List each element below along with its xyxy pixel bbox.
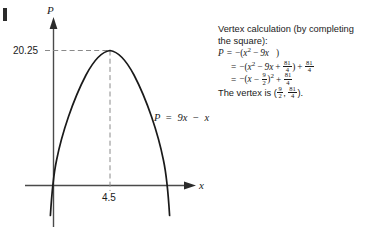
x-tick-label-45: 4.5 <box>102 192 116 203</box>
eq3-plus: + <box>276 75 281 85</box>
x-axis-label: x <box>198 179 204 191</box>
curve-label-minus: − <box>193 112 199 123</box>
eq1-lhs: P <box>218 48 224 58</box>
eq3-frac2-numerator: 81 <box>284 72 293 79</box>
eq2-frac1-numerator: 81 <box>283 60 292 67</box>
parabola-graph: P x 20.25 4.5 P = 9x − x 2 <box>0 0 210 227</box>
vertex-calculation-panel: Vertex calculation (by completing the sq… <box>218 24 370 100</box>
eq2-fraction2-81-over-4: 814 <box>305 60 314 74</box>
curve-label-equals: = <box>166 112 172 123</box>
eq1-equals: = <box>227 48 232 58</box>
calculation-equation-line-1: P=−(x2−9x) <box>218 47 370 60</box>
vertex-frac1-denominator: 2 <box>277 92 282 100</box>
eq2-frac2-denominator: 4 <box>305 66 314 74</box>
eq3-exponent: 2 <box>270 73 274 81</box>
eq3-x: x <box>248 75 252 85</box>
vertex-frac1-numerator: 9 <box>277 86 282 93</box>
y-axis-label: P <box>46 4 54 16</box>
eq1-minus2: − <box>253 48 258 58</box>
figure-container: P x 20.25 4.5 P = 9x − x 2 Vertex calcul… <box>0 0 374 227</box>
eq2-equals: = <box>231 62 236 72</box>
vertex-frac2-denominator: 4 <box>288 92 297 100</box>
eq1-exponent: 2 <box>247 46 251 54</box>
eq2-minus2: − <box>257 62 262 72</box>
calculation-equation-line-2: =−(x2−9x+814)+814 <box>218 60 370 73</box>
vertex-conclusion-prefix: The vertex is ( <box>218 88 277 98</box>
vertex-fraction-9-over-2: 92 <box>277 86 282 100</box>
eq2-plus2: + <box>297 62 302 72</box>
vertex-frac2-numerator: 81 <box>288 86 297 93</box>
curve-label-term2: x <box>204 112 210 123</box>
calculation-heading-line2: the square): <box>218 36 370 48</box>
vertex-conclusion-suffix: ). <box>297 88 303 98</box>
y-axis <box>50 17 58 227</box>
vertex-conclusion: The vertex is (92,814). <box>218 86 370 100</box>
y-tick-label-2025: 20.25 <box>13 45 38 56</box>
eq3-minus2: − <box>254 75 259 85</box>
eq3-frac1-numerator: 9 <box>262 72 267 79</box>
eq3-equals: = <box>231 75 236 85</box>
eq3-fraction-9-over-2: 92 <box>262 72 267 86</box>
curve-label-lhs: P <box>153 112 161 123</box>
eq2-frac2-numerator: 81 <box>305 60 314 67</box>
calculation-equation-line-3: =−(x−92)2+814 <box>218 72 370 85</box>
curve-label-term1: 9x <box>177 112 187 123</box>
vertex-comma: , <box>283 88 286 98</box>
eq2-close-paren: ) <box>292 62 295 72</box>
calculation-heading-line1: Vertex calculation (by completing <box>218 24 370 36</box>
vertex-fraction-81-over-4: 814 <box>288 86 297 100</box>
eq2-exponent: 2 <box>252 60 256 68</box>
eq2-plus: + <box>275 62 280 72</box>
eq1-close-paren: ) <box>276 48 279 58</box>
curve-equation-label: P = 9x − x 2 <box>153 111 210 123</box>
eq1-nine-x: 9x <box>260 48 269 58</box>
